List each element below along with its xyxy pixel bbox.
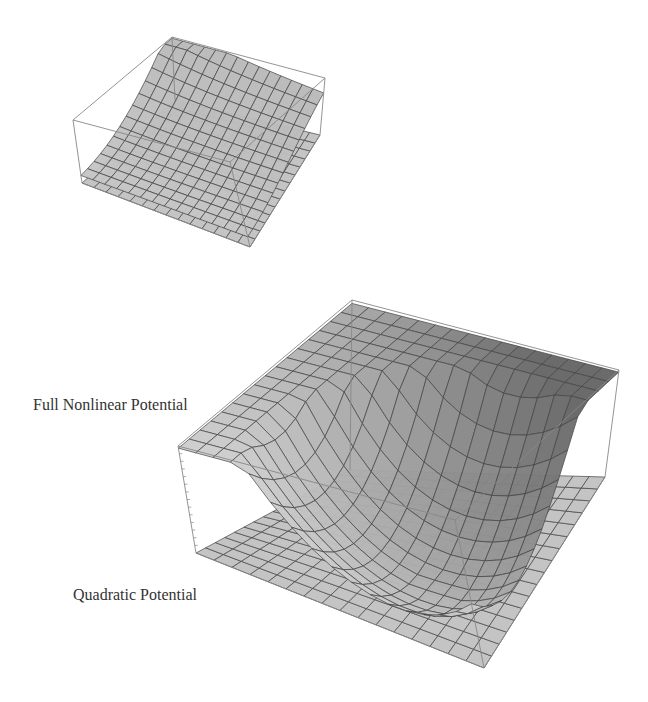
quadratic-potential-label: Quadratic Potential xyxy=(73,586,197,604)
nonlinear-potential-label: Full Nonlinear Potential xyxy=(33,396,188,414)
large-surface-plot xyxy=(178,300,619,668)
small-surface-plot xyxy=(73,37,325,247)
